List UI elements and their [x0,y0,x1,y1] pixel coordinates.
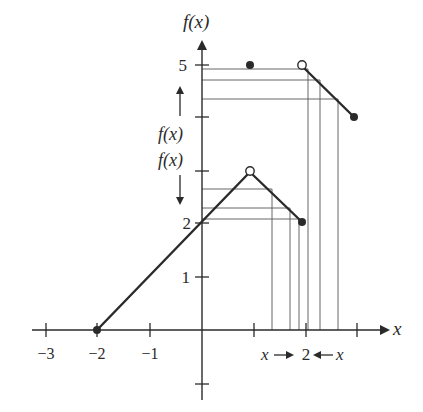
y-tick-label-1: 1 [182,268,191,287]
filled-point-2-2 [298,218,306,226]
segment-falling-lower [252,174,302,222]
lower-fx-label: f(x) [158,150,183,171]
axes [32,42,388,400]
y-tick-label-5: 5 [179,56,188,75]
filled-point-3-4 [350,113,358,121]
open-point-1-3 [246,167,254,175]
x-tick-label-neg1: −1 [141,345,158,362]
x-left-label: x [260,345,269,364]
function-segments [97,68,354,330]
x-tick-label-neg3: −3 [37,345,54,362]
upper-fx-label: f(x) [158,124,183,145]
filled-point-neg2-0 [93,326,101,334]
function-graph: f(x) x −3 −2 −1 5 2 1 f(x) f(x) x 2 x [0,0,423,412]
x-right-label: x [335,345,344,364]
y-tick-label-2: 2 [183,214,192,233]
filled-point-1-5 [246,61,254,69]
open-point-2-5 [298,61,306,69]
x-center-label: 2 [302,345,311,364]
segment-rising [97,174,248,330]
segment-falling-upper [304,68,354,117]
x-axis-label: x [392,318,402,339]
x-tick-label-neg2: −2 [88,345,105,362]
y-axis-label: f(x) [183,11,209,33]
